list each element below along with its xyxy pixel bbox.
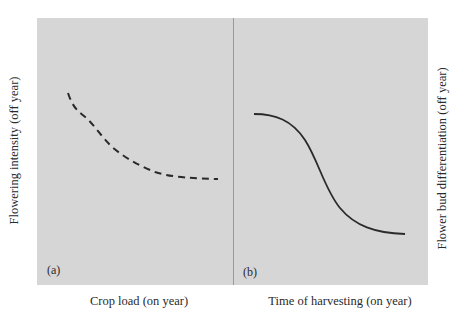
y-axis-label-a: Flowering intensity (off year) bbox=[7, 76, 22, 226]
solid-curve-flower-bud-differentiation bbox=[254, 114, 405, 234]
x-axis-label-b: Time of harvesting (on year) bbox=[260, 294, 420, 309]
panel-a-tag: (a) bbox=[47, 263, 60, 278]
panel-b-tag: (b) bbox=[243, 265, 257, 280]
x-axis-label-a: Crop load (on year) bbox=[80, 294, 198, 309]
dashed-curve-flowering-intensity bbox=[68, 93, 218, 179]
y-axis-label-b: Flower bud differentiation (off year) bbox=[435, 66, 450, 252]
curves-layer bbox=[0, 0, 459, 318]
